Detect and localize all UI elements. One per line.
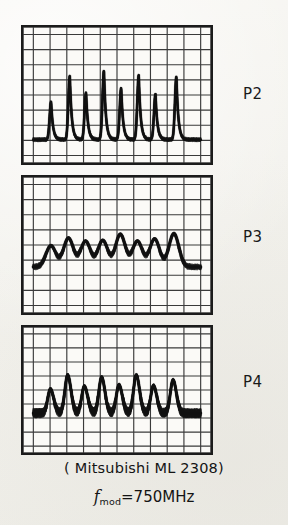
trace-label-p2: P2: [243, 85, 263, 103]
oscilloscope-panel-p3: [21, 175, 213, 315]
oscilloscope-panel-p2: [21, 25, 213, 165]
caption-modulation-frequency: fmod=750MHz: [0, 487, 288, 507]
oscilloscope-panel-p4: [21, 325, 213, 455]
graticule-p2: [23, 27, 211, 163]
freq-value: =750MHz: [121, 488, 194, 506]
scope-screen-p3: [23, 177, 211, 313]
trace-label-p3: P3: [243, 228, 263, 246]
scope-screen-p2: [23, 27, 211, 163]
caption-device-name: ( Mitsubishi ML 2308): [0, 460, 288, 476]
scope-screen-p4: [23, 327, 211, 453]
freq-subscript: mod: [100, 496, 121, 507]
trace-label-p4: P4: [243, 373, 263, 391]
